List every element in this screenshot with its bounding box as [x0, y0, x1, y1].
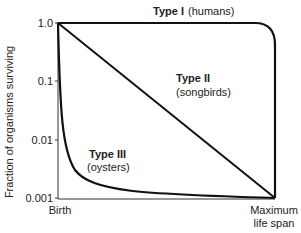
x-tick-max-line2: life span	[254, 217, 295, 229]
y-axis-label: Fraction of organisms surviving	[3, 46, 15, 198]
survivorship-chart: 1.0 0.1 0.01 0.001 Fraction of organisms…	[0, 0, 301, 233]
type3-name: Type III	[89, 148, 126, 160]
type2-example: (songbirds)	[176, 86, 231, 98]
y-tick-0.1: 0.1	[38, 75, 53, 87]
y-tick-1: 1.0	[38, 17, 53, 29]
x-tick-max-line1: Maximum	[250, 204, 298, 216]
type2-name: Type II	[176, 72, 210, 84]
x-tick-birth: Birth	[49, 204, 72, 216]
type3-example: (oysters)	[87, 161, 130, 173]
y-tick-0.01: 0.01	[32, 134, 53, 146]
y-tick-0.001: 0.001	[25, 192, 53, 204]
type1-label: Type I(humans)	[153, 5, 234, 17]
